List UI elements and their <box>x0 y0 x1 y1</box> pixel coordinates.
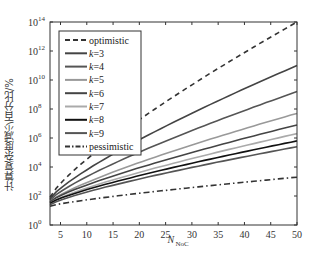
legend-item: k=4 <box>89 61 104 72</box>
y-tick-label: 10 <box>28 162 38 173</box>
x-axis-label: N <box>167 234 176 245</box>
legend-item: k=7 <box>89 101 104 112</box>
legend-item: k=5 <box>89 74 104 85</box>
chart: 5101520253035404550100102104106108101010… <box>0 0 313 254</box>
y-tick-label: 10 <box>28 75 38 86</box>
legend-item: optimistic <box>89 35 130 46</box>
y-tick-label: 10 <box>28 191 38 202</box>
x-tick-label: 10 <box>82 229 92 240</box>
svg-text:0: 0 <box>38 218 42 226</box>
x-tick-label: 35 <box>213 229 223 240</box>
svg-text:10: 10 <box>38 73 46 81</box>
x-tick-label: 30 <box>187 229 197 240</box>
y-tick-label: 10 <box>28 133 38 144</box>
svg-text:12: 12 <box>38 44 46 52</box>
svg-text:8: 8 <box>38 102 42 110</box>
y-tick-label: 10 <box>28 17 38 28</box>
svg-text:4: 4 <box>38 160 42 168</box>
svg-text:14: 14 <box>38 15 46 23</box>
legend-item: k=3 <box>89 48 104 59</box>
x-tick-label: 20 <box>134 229 144 240</box>
y-tick-label: 10 <box>28 46 38 57</box>
x-tick-label: 40 <box>239 229 249 240</box>
svg-text:NoC: NoC <box>176 240 190 248</box>
svg-text:2: 2 <box>38 189 42 197</box>
x-tick-label: 45 <box>266 229 276 240</box>
x-tick-label: 50 <box>292 229 302 240</box>
y-tick-label: 10 <box>28 104 38 115</box>
svg-text:6: 6 <box>38 131 42 139</box>
x-tick-label: 15 <box>108 229 118 240</box>
x-tick-label: 5 <box>58 229 63 240</box>
y-tick-label: 10 <box>28 220 38 231</box>
legend-item: k=6 <box>89 88 104 99</box>
legend-item: k=9 <box>89 128 104 139</box>
legend-item: pessimistic <box>89 141 134 152</box>
legend-item: k=8 <box>89 114 104 125</box>
